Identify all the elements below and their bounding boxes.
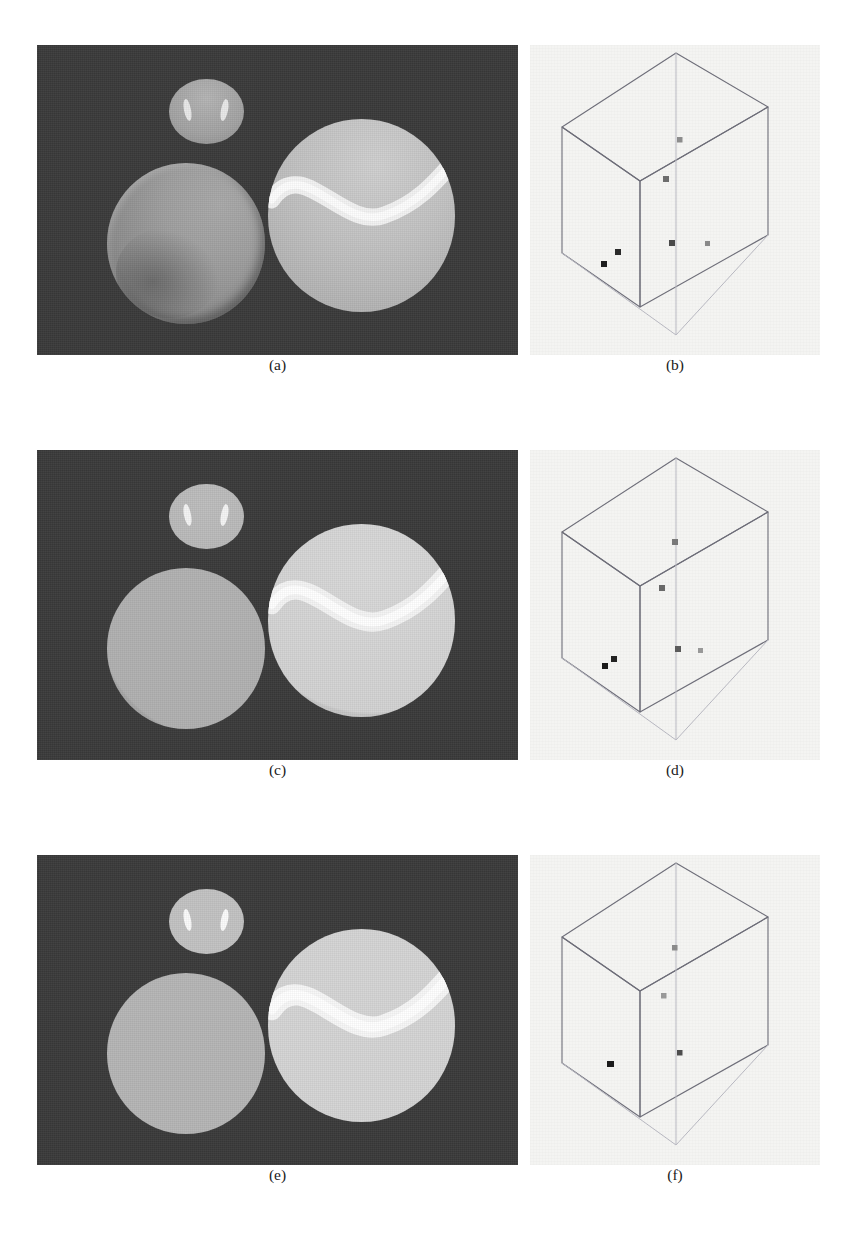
sphere-tennis-c [268,524,456,716]
caption-d: (d) [530,762,820,778]
sphere-small-c [169,484,244,549]
panel-a-image [37,45,518,355]
panel-d-plot [530,450,820,760]
rgb-cube-plot-d [530,450,820,760]
scene-render-c [37,450,518,760]
sphere-plain-e [107,973,266,1134]
sphere-tennis-a [268,119,456,311]
tennis-seam-icon [268,929,456,1121]
scene-render-a [37,45,518,355]
panel-b-plot [530,45,820,355]
panel-c-image [37,450,518,760]
figure-root: (a) (b) [0,0,851,1241]
rgb-cube-plot-f [530,855,820,1165]
sphere-small-e [169,889,244,954]
caption-a: (a) [37,357,518,373]
specular-highlight-right [219,503,230,526]
caption-f: (f) [530,1167,820,1183]
tennis-seam-icon [268,524,456,716]
panel-f-plot [530,855,820,1165]
sphere-plain-a [107,163,266,324]
rgb-cube-plot-b [530,45,820,355]
caption-e: (e) [37,1167,518,1183]
specular-highlight-left [182,908,193,931]
scene-render-e [37,855,518,1165]
specular-highlight-right [219,908,230,931]
sphere-small-a [169,79,244,144]
specular-highlight-left [182,98,193,121]
scatter-points-b [601,137,710,267]
sphere-tennis-e [268,929,456,1121]
sphere-shadow-patch [116,227,221,317]
caption-b: (b) [530,357,820,373]
panel-e-image [37,855,518,1165]
specular-highlight-right [219,98,230,121]
caption-c: (c) [37,762,518,778]
top-cut-text [0,0,851,4]
tennis-seam-icon [268,119,456,311]
specular-highlight-left [182,503,193,526]
scatter-points-f [607,945,683,1067]
sphere-plain-c [107,568,266,729]
